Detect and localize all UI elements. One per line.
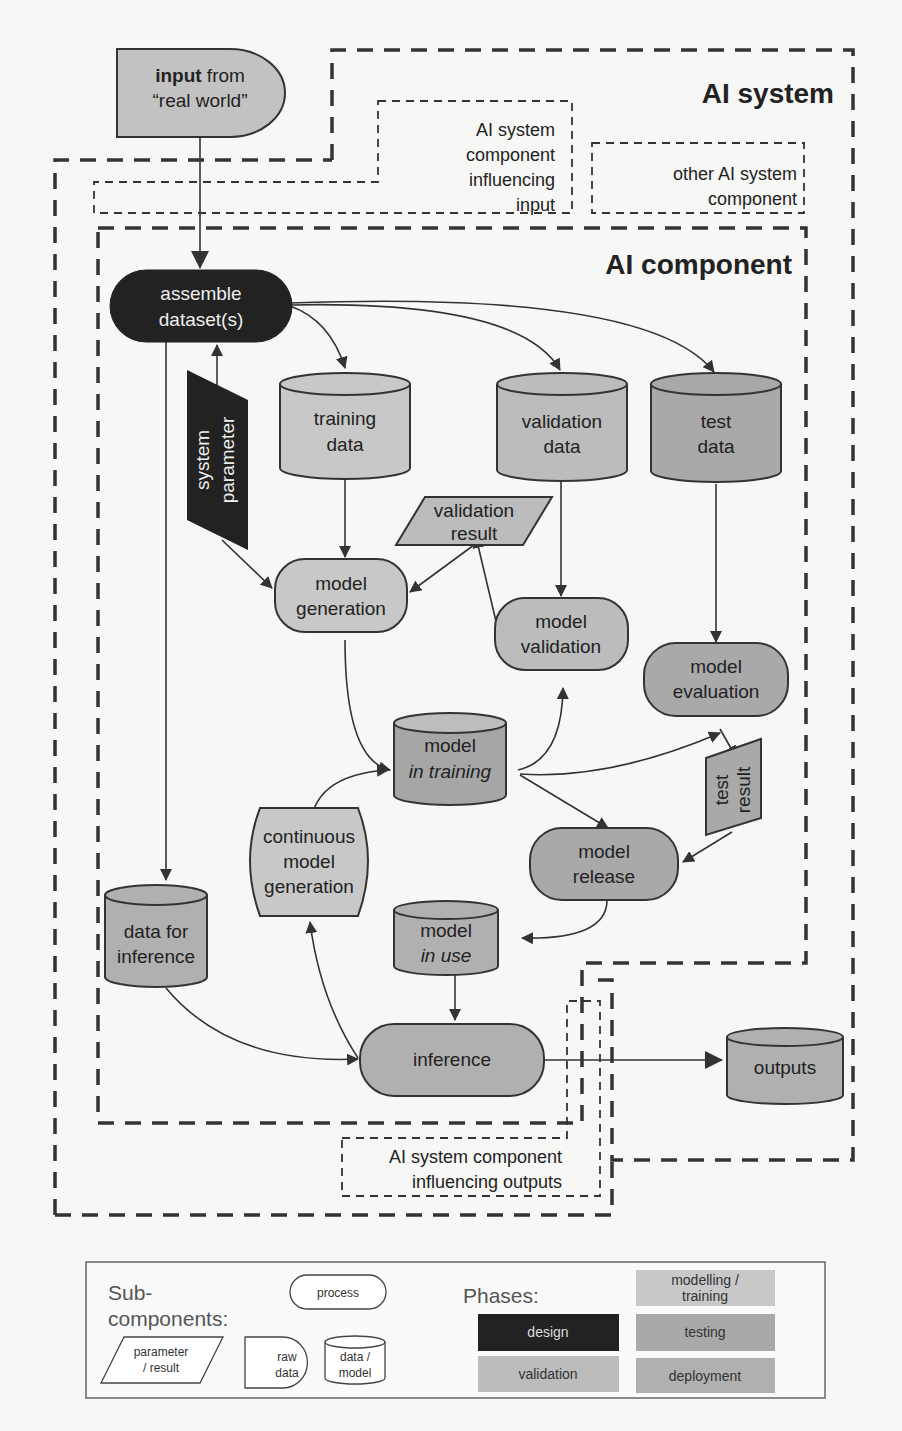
svg-text:AI system: AI system — [476, 120, 555, 140]
edge-test-result-to-release — [683, 832, 732, 862]
svg-text:model: model — [339, 1366, 372, 1380]
ai-component-title: AI component — [605, 249, 792, 280]
edge-assemble-to-training — [290, 306, 345, 368]
svg-text:influencing: influencing — [469, 170, 555, 190]
svg-text:model: model — [535, 611, 587, 632]
edge-training-to-release — [520, 775, 608, 828]
svg-text:in use: in use — [421, 945, 472, 966]
legend-phases-title: Phases: — [463, 1284, 539, 1307]
svg-text:outputs: outputs — [754, 1057, 816, 1078]
svg-text:data: data — [544, 436, 581, 457]
svg-text:raw: raw — [277, 1350, 297, 1364]
svg-text:deployment: deployment — [669, 1368, 741, 1384]
edge-validation-result-to-generation — [410, 545, 474, 592]
ai-system-title: AI system — [702, 78, 834, 109]
node-model-generation[interactable]: model generation — [275, 559, 407, 632]
node-inference[interactable]: inference — [360, 1024, 544, 1096]
svg-text:process: process — [317, 1286, 359, 1300]
legend: Sub- components: process parameter / res… — [86, 1262, 825, 1398]
svg-text:training: training — [682, 1288, 728, 1304]
svg-text:data: data — [698, 436, 735, 457]
svg-text:result: result — [733, 766, 754, 813]
svg-text:input: input — [516, 195, 555, 215]
svg-text:AI system component: AI system component — [389, 1147, 562, 1167]
svg-text:model: model — [424, 735, 476, 756]
node-test-result[interactable]: test result — [706, 739, 761, 835]
phase-testing: testing — [636, 1314, 775, 1351]
node-model-in-training[interactable]: model in training — [394, 713, 506, 805]
svg-text:training: training — [314, 408, 376, 429]
svg-text:model: model — [578, 841, 630, 862]
svg-text:data: data — [327, 434, 364, 455]
edge-training-to-evaluation — [520, 733, 720, 775]
node-training-data[interactable]: training data — [280, 373, 410, 479]
phase-modelling-training: modelling / training — [636, 1270, 775, 1306]
node-outputs[interactable]: outputs — [727, 1028, 843, 1104]
edge-inference-data-to-inference — [166, 988, 358, 1059]
node-system-parameter[interactable]: system parameter — [187, 370, 248, 550]
svg-text:model: model — [690, 656, 742, 677]
svg-text:inference: inference — [413, 1049, 491, 1070]
node-input-real-world[interactable]: input from “real world” — [117, 49, 285, 137]
svg-text:data: data — [275, 1366, 299, 1380]
svg-text:validation: validation — [521, 636, 601, 657]
edge-generation-to-training-model — [345, 640, 390, 770]
svg-text:other AI system: other AI system — [673, 164, 797, 184]
legend-data-model: data / model — [325, 1336, 385, 1384]
svg-text:release: release — [573, 866, 635, 887]
svg-text:components:: components: — [108, 1307, 228, 1330]
svg-text:dataset(s): dataset(s) — [159, 309, 243, 330]
svg-text:generation: generation — [296, 598, 386, 619]
svg-text:assemble: assemble — [160, 283, 241, 304]
phase-design: design — [478, 1314, 619, 1351]
node-assemble-datasets[interactable]: assemble dataset(s) — [110, 270, 292, 342]
node-model-validation[interactable]: model validation — [495, 598, 628, 670]
phase-deployment: deployment — [636, 1358, 775, 1393]
svg-text:testing: testing — [684, 1324, 725, 1340]
phase-validation: validation — [478, 1356, 619, 1392]
node-validation-result[interactable]: validation result — [396, 497, 552, 545]
node-data-for-inference[interactable]: data for inference — [105, 885, 207, 987]
svg-text:system: system — [192, 430, 213, 490]
node-model-evaluation[interactable]: model evaluation — [644, 643, 788, 716]
other-component-label: other AI system component — [673, 164, 797, 209]
edge-assemble-to-test — [290, 301, 714, 372]
svg-text:inference: inference — [117, 946, 195, 967]
svg-text:influencing outputs: influencing outputs — [412, 1172, 562, 1192]
svg-text:validation: validation — [522, 411, 602, 432]
svg-text:component: component — [466, 145, 555, 165]
edge-training-to-validation — [518, 688, 563, 770]
svg-text:/ result: / result — [143, 1361, 180, 1375]
svg-text:validation: validation — [434, 500, 514, 521]
svg-text:evaluation: evaluation — [673, 681, 760, 702]
edge-release-to-in-use — [522, 900, 607, 938]
legend-process: process — [290, 1275, 386, 1309]
svg-text:in training: in training — [409, 761, 492, 782]
svg-text:model: model — [315, 573, 367, 594]
svg-text:data for: data for — [124, 921, 189, 942]
svg-text:test: test — [711, 774, 732, 805]
svg-text:model: model — [283, 851, 335, 872]
ai-lifecycle-diagram: AI system AI component AI system compone… — [0, 0, 902, 1431]
svg-text:test: test — [701, 411, 732, 432]
node-model-in-use[interactable]: model in use — [394, 901, 498, 975]
svg-text:“real world”: “real world” — [152, 90, 247, 111]
svg-text:validation: validation — [518, 1366, 577, 1382]
influencing-input-label: AI system component influencing input — [466, 120, 555, 215]
node-validation-data[interactable]: validation data — [497, 373, 627, 481]
svg-text:parameter: parameter — [217, 416, 238, 503]
legend-subcomponents-title: Sub- — [108, 1281, 152, 1304]
svg-text:data /: data / — [340, 1350, 371, 1364]
svg-text:continuous: continuous — [263, 826, 355, 847]
svg-text:modelling /: modelling / — [671, 1272, 739, 1288]
node-test-data[interactable]: test data — [651, 373, 781, 482]
influencing-outputs-label: AI system component influencing outputs — [389, 1147, 562, 1192]
legend-raw-data: raw data — [245, 1337, 307, 1388]
svg-text:design: design — [527, 1324, 568, 1340]
node-model-release[interactable]: model release — [530, 828, 678, 900]
svg-text:generation: generation — [264, 876, 354, 897]
svg-text:parameter: parameter — [134, 1345, 189, 1359]
svg-text:input from: input from — [155, 65, 245, 86]
node-continuous-model-generation[interactable]: continuous model generation — [250, 808, 368, 916]
edge-inference-to-continuous — [310, 922, 358, 1058]
